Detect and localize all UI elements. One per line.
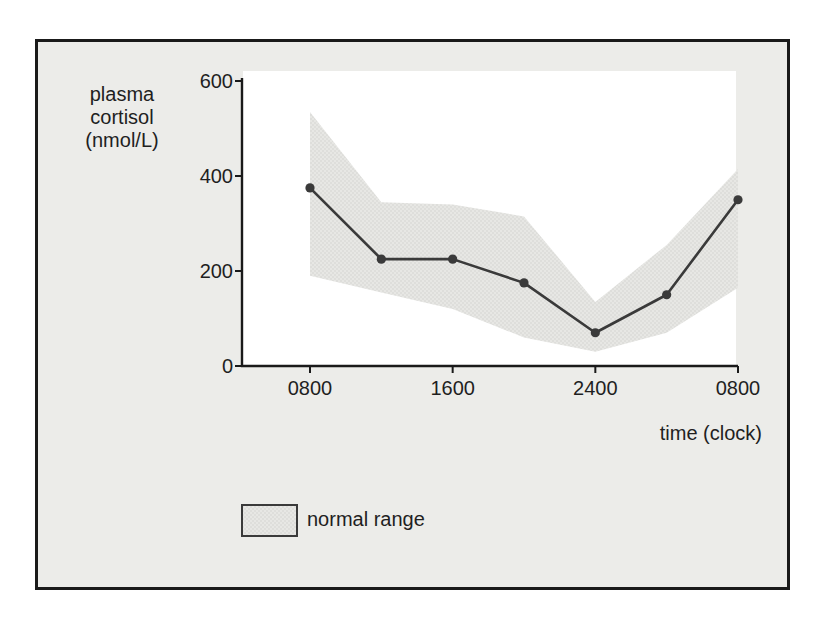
y-axis-title-line-1: plasma	[62, 83, 182, 106]
legend-label: normal range	[307, 508, 425, 530]
x-tick-label: 2400	[563, 377, 627, 399]
y-axis-title-line-3: (nmol/L)	[62, 129, 182, 152]
data-point-1600	[448, 255, 457, 264]
y-tick-label: 600	[183, 70, 233, 92]
y-axis-title-line-2: cortisol	[62, 106, 182, 129]
x-axis-title: time (clock)	[598, 422, 762, 444]
y-axis-title: plasma cortisol (nmol/L)	[62, 83, 182, 152]
data-point-0800	[733, 195, 742, 204]
x-tick-label: 0800	[278, 377, 342, 399]
y-tick-label: 0	[183, 355, 233, 377]
x-tick-label: 1600	[421, 377, 485, 399]
legend-swatch	[242, 505, 297, 536]
data-point-2400	[591, 328, 600, 337]
data-point-1200	[377, 255, 386, 264]
y-tick-label: 400	[183, 165, 233, 187]
data-point-2000	[519, 278, 528, 287]
figure-page: plasma cortisol (nmol/L) time (clock) 02…	[0, 0, 820, 621]
data-point-0400	[662, 290, 671, 299]
data-point-0800	[305, 183, 314, 192]
y-tick-label: 200	[183, 260, 233, 282]
x-tick-label: 0800	[706, 377, 770, 399]
